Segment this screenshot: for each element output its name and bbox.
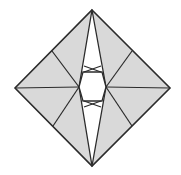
origami-diagram — [0, 0, 181, 175]
origami-diagram-svg — [0, 0, 181, 175]
center-opening — [79, 72, 106, 101]
